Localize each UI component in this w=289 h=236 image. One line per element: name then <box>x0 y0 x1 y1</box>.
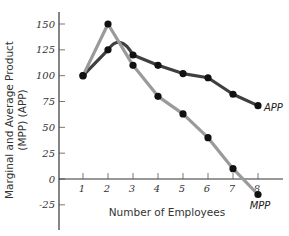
y-tick-label: -25 <box>39 199 55 210</box>
mpp-point <box>104 20 111 27</box>
app-label: APP <box>263 102 284 113</box>
app-point <box>204 74 211 81</box>
y-tick-label: 100 <box>36 70 56 81</box>
mpp-point <box>254 191 261 198</box>
app-point <box>129 51 136 58</box>
y-tick-label: 150 <box>36 19 56 30</box>
y-tick-label: 125 <box>36 44 55 55</box>
y-tick-label: 25 <box>41 148 55 159</box>
mpp-point <box>129 62 136 69</box>
y-axis-title-line-1: Marginal and Average Product <box>3 41 15 199</box>
app-point <box>254 102 261 109</box>
mpp-point <box>154 93 161 100</box>
app-point <box>229 91 236 98</box>
mpp-label: MPP <box>250 200 272 211</box>
y-tick-label: 75 <box>42 96 55 107</box>
x-tick-label: 4 <box>153 183 160 194</box>
x-tick-label: 6 <box>204 183 211 194</box>
app-point <box>179 70 186 77</box>
mpp-point <box>204 134 211 141</box>
y-axis-title: Marginal and Average Product (MPP) (APP) <box>3 41 28 199</box>
x-tick-label: 2 <box>103 183 110 194</box>
app-point <box>104 46 111 53</box>
mpp-point <box>179 110 186 117</box>
mpp-app-chart: Marginal and Average Product (MPP) (APP)… <box>0 0 289 236</box>
x-axis-title: Number of Employees <box>109 206 225 218</box>
y-axis-title-line-2: (MPP) (APP) <box>16 89 28 150</box>
y-tick-label: 50 <box>42 122 55 133</box>
app-point <box>154 62 161 69</box>
y-tick-label: 0 <box>49 174 56 185</box>
x-tick-label: 5 <box>179 183 185 194</box>
x-tick-label: 3 <box>129 183 135 194</box>
y-axis: 1501251007550250-25 <box>36 12 65 230</box>
series-layer: APPMPP <box>79 20 283 210</box>
x-tick-label: 1 <box>79 183 85 194</box>
mpp-point <box>79 72 86 79</box>
mpp-point <box>229 165 236 172</box>
x-tick-label: 7 <box>229 183 236 194</box>
